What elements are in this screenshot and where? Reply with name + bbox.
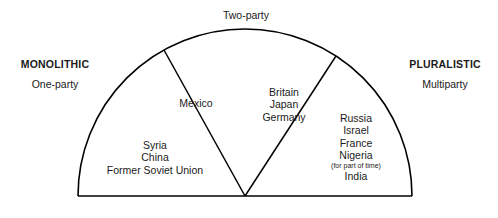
sector-entry: Nigeria [320,149,392,161]
sector-entry: Japan [250,98,318,110]
sector-entry: Former Soviet Union [85,164,225,176]
sector-entry: Russia [320,112,392,124]
sector-entry: Germany [250,111,318,123]
sector-entry: Syria [85,139,225,151]
sector-entry: India [320,170,392,182]
diagram-canvas: Two-party MONOLITHIC One-party PLURALIST… [0,0,498,218]
sector-annotation: (for part of time) [320,162,392,170]
pole-monolithic-title: MONOLITHIC [8,58,102,70]
pole-monolithic: MONOLITHIC One-party [8,58,102,91]
pole-pluralistic-subtitle: Multiparty [398,78,492,90]
sector-entry: France [320,137,392,149]
sector-list-two-party: Britain Japan Germany [250,86,318,123]
sector-entry: Israel [320,124,392,136]
sector-list-monolithic: Syria China Former Soviet Union [85,139,225,176]
sector-list-pluralistic: Russia Israel France Nigeria (for part o… [320,112,392,182]
sector-entry: China [85,151,225,163]
label-two-party: Two-party [180,9,312,21]
semicircle-spectrum-graphic [0,0,498,218]
pole-pluralistic-title: PLURALISTIC [398,58,492,70]
pole-monolithic-subtitle: One-party [8,78,102,90]
callout-mexico: Mexico [156,97,236,109]
pole-pluralistic: PLURALISTIC Multiparty [398,58,492,91]
sector-entry: Britain [250,86,318,98]
